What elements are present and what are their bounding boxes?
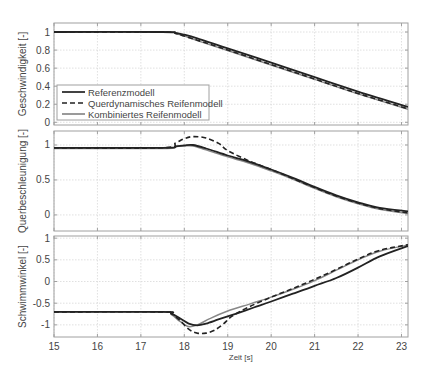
x-tick-label: 15 [48,341,60,352]
y-tick-label: 0.2 [36,99,50,110]
x-axis-label: Zeit [s] [229,353,253,362]
y-tick-label: 0.5 [36,174,50,185]
x-tick-label: 23 [396,341,408,352]
axes-frame [54,236,408,337]
figure: 00.20.40.60.81Geschwindigkeit [-]Referen… [0,0,430,377]
x-tick-label: 17 [135,341,147,352]
series-line [54,245,408,334]
y-tick-label: 0.4 [36,81,50,92]
y-tick-label: 0 [44,276,50,287]
series-line [54,246,408,325]
panel-schwimmwinkel: -1-0.500.51151617181920212223Schwimmwink… [17,233,408,362]
legend: ReferenzmodellQuerdynamisches Reifenmode… [57,85,223,120]
x-tick-label: 20 [266,341,278,352]
series-line [54,145,408,212]
y-tick-label: 0 [44,209,50,220]
chart-canvas: 00.20.40.60.81Geschwindigkeit [-]Referen… [0,0,430,377]
x-tick-label: 16 [92,341,104,352]
axes-frame [54,131,408,231]
y-tick-label: 1 [44,233,50,244]
legend-entry-label: Referenzmodell [88,87,155,98]
panel-geschwindigkeit: 00.20.40.60.81Geschwindigkeit [-]Referen… [17,23,408,128]
legend-entry-label: Querdynamisches Reifenmodell [88,98,223,109]
y-tick-label: -0.5 [33,298,51,309]
x-tick-label: 22 [352,341,364,352]
y-tick-label: 1 [44,139,50,150]
y-axis-label: Geschwindigkeit [-] [17,32,28,117]
x-tick-label: 19 [222,341,234,352]
grid-lines [54,236,408,337]
panel-querbeschleunigung: 00.51Querbeschleunigung [-] [17,129,408,233]
y-tick-label: 0 [44,117,50,128]
y-axis-label: Querbeschleunigung [-] [17,129,28,233]
y-axis-label: Schwimmwinkel [-] [17,245,28,328]
y-tick-label: 0.6 [36,63,50,74]
grid-lines [54,131,408,231]
x-tick-label: 18 [179,341,191,352]
legend-entry-label: Kombiniertes Reifenmodell [88,109,202,120]
y-tick-label: 1 [44,27,50,38]
x-tick-label: 21 [309,341,321,352]
y-tick-label: 0.5 [36,254,50,265]
y-tick-label: -1 [41,319,50,330]
y-tick-label: 0.8 [36,45,50,56]
